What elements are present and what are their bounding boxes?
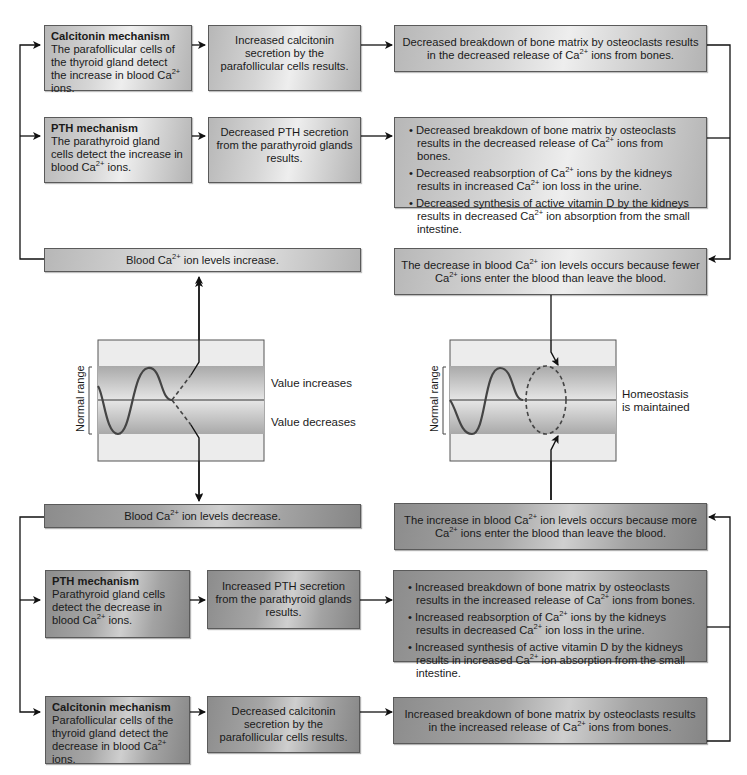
graph-right-wave	[450, 368, 523, 434]
graph-left	[89, 280, 264, 500]
graph-right-dashed-loop	[526, 366, 566, 434]
top-outcome-box: The decrease in blood Ca2+ ion levels oc…	[394, 248, 707, 295]
top-calcitonin-result-box: Increased calcitonin secretion by the pa…	[208, 25, 361, 91]
bottom-stimulus-box: Blood Ca2+ ion levels decrease.	[44, 504, 361, 528]
effect-item: Increased synthesis of active vitamin D …	[406, 641, 698, 680]
graph-left-band-upper	[98, 366, 264, 400]
box-title: PTH mechanism	[51, 122, 185, 135]
effect-item: Increased breakdown of bone matrix by os…	[406, 581, 698, 607]
effect-item: Decreased reabsorption of Ca2+ ions by t…	[407, 167, 698, 193]
bottom-pth-result-box: Increased PTH secretion from the parathy…	[207, 570, 360, 629]
box-title: Calcitonin mechanism	[52, 701, 183, 714]
top-calcitonin-mechanism-box: Calcitonin mechanism The parafollicular …	[44, 25, 192, 91]
graph-right	[443, 340, 616, 500]
graph-right-bracket	[443, 367, 446, 434]
effect-item: Decreased breakdown of bone matrix by os…	[407, 124, 698, 163]
graph-left-increase-label: Value increases	[271, 377, 352, 390]
graph-left-dashed-up	[172, 375, 191, 400]
graph-left-bracket	[89, 367, 92, 434]
connector-bottom-effects-to-outcome	[707, 517, 730, 741]
effect-item: Decreased synthesis of active vitamin D …	[407, 197, 698, 236]
bottom-calcitonin-effect-box: Increased breakdown of bone matrix by os…	[393, 697, 707, 744]
bottom-outcome-box: The increase in blood Ca2+ ion levels oc…	[394, 503, 707, 550]
connector-top-effects-to-outcome	[707, 45, 730, 259]
graph-left-wave	[98, 368, 172, 434]
top-pth-mechanism-box: PTH mechanism The parathyroid gland cell…	[44, 117, 192, 183]
graph-right-band-lower	[450, 400, 616, 434]
top-pth-result-box: Decreased PTH secretion from the parathy…	[208, 117, 361, 183]
graph-right-frame	[450, 340, 616, 461]
graph-left-band-lower	[98, 400, 264, 434]
graph-right-arrow-down	[551, 340, 558, 365]
connector-bottom-stimulus-to-left	[20, 517, 44, 712]
effect-item: Increased reabsorption of Ca2+ ions by t…	[406, 611, 698, 637]
bottom-calcitonin-result-box: Decreased calcitonin secretion by the pa…	[207, 696, 360, 753]
graph-left-trace-up	[191, 280, 199, 375]
box-title: Calcitonin mechanism	[51, 30, 185, 43]
bottom-calcitonin-mechanism-box: Calcitonin mechanism Parafollicular cell…	[45, 696, 190, 764]
graph-left-range-label: Normal range	[74, 365, 86, 432]
connector-stimulus-to-top-left	[20, 45, 44, 259]
graph-left-frame	[98, 340, 264, 461]
graph-right-band-upper	[450, 366, 616, 400]
box-title: PTH mechanism	[52, 575, 183, 588]
graph-right-arrow-up	[551, 436, 558, 500]
bottom-pth-mechanism-box: PTH mechanism Parathyroid gland cells de…	[45, 570, 190, 638]
top-stimulus-box: Blood Ca2+ ion levels increase.	[44, 248, 361, 272]
graph-left-decrease-label: Value decreases	[271, 416, 356, 429]
graph-left-trace-down	[191, 425, 199, 500]
graph-right-range-label: Normal range	[428, 365, 440, 432]
top-pth-effects-box: Decreased breakdown of bone matrix by os…	[394, 117, 707, 208]
graph-left-dashed-down	[172, 400, 191, 425]
graph-right-status-label: Homeostasis is maintained	[622, 388, 690, 414]
bottom-pth-effects-box: Increased breakdown of bone matrix by os…	[393, 570, 707, 662]
top-calcitonin-effect-box: Decreased breakdown of bone matrix by os…	[394, 25, 707, 72]
